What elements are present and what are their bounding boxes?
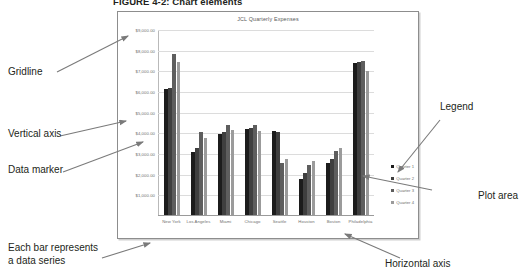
- data-marker-bar[interactable]: [299, 179, 303, 215]
- legend-swatch-icon: [391, 177, 394, 180]
- x-axis-tick-label: New York: [162, 219, 181, 224]
- data-marker-bar[interactable]: [361, 61, 365, 215]
- data-marker-bar[interactable]: [357, 62, 361, 215]
- bar-group[interactable]: [299, 29, 315, 215]
- figure-container: FIGURE 4-2: Chart elements JCL Quarterly…: [0, 0, 527, 276]
- y-axis-tick-label: $3,000.00: [135, 152, 155, 157]
- legend-item-label: Quarter 3: [396, 188, 414, 193]
- data-marker-bar[interactable]: [172, 54, 176, 215]
- data-marker-bar[interactable]: [204, 138, 208, 216]
- bar-group[interactable]: [164, 29, 180, 215]
- legend-item[interactable]: Quarter 2: [391, 176, 414, 181]
- legend-item[interactable]: Quarter 4: [391, 200, 414, 205]
- bar-group[interactable]: [218, 29, 234, 215]
- data-marker-bar[interactable]: [231, 130, 235, 215]
- annotation-gridline: Gridline: [8, 66, 42, 79]
- figure-caption-text: Chart elements: [172, 0, 242, 7]
- x-axis-tick-label: Los Angeles: [187, 219, 211, 224]
- legend-swatch-icon: [391, 165, 394, 168]
- legend-item-label: Quarter 2: [396, 176, 414, 181]
- horizontal-axis: [158, 215, 374, 216]
- chart-frame[interactable]: JCL Quarterly Expenses $9,000.00$8,000.0…: [117, 11, 419, 239]
- annotation-data-series: Each bar represents a data series: [8, 242, 98, 267]
- data-marker-bar[interactable]: [177, 62, 181, 215]
- y-axis-tick-label: $9,000.00: [135, 28, 155, 33]
- data-marker-bar[interactable]: [312, 161, 316, 215]
- plot-area[interactable]: $9,000.00$8,000.00$7,000.00$6,000.00$5,0…: [158, 30, 374, 216]
- legend-item[interactable]: Quarter 3: [391, 188, 414, 193]
- x-axis-tick-label: Miami: [220, 219, 232, 224]
- bar-group[interactable]: [245, 29, 261, 215]
- data-marker-bar[interactable]: [326, 163, 330, 215]
- legend-item-label: Quarter 4: [396, 200, 414, 205]
- bar-group[interactable]: [326, 29, 342, 215]
- data-marker-bar[interactable]: [366, 71, 370, 215]
- legend[interactable]: Quarter 1Quarter 2Quarter 3Quarter 4: [391, 164, 414, 205]
- bar-group[interactable]: [272, 29, 288, 215]
- data-marker-bar[interactable]: [285, 159, 289, 215]
- legend-swatch-icon: [391, 201, 394, 204]
- x-axis-tick-label: Philadelphia: [348, 219, 372, 224]
- annotation-data-series-line1: Each bar represents: [8, 242, 98, 255]
- data-marker-bar[interactable]: [258, 131, 262, 215]
- y-axis-tick-label: $1,000.00: [135, 193, 155, 198]
- data-marker-bar[interactable]: [168, 88, 172, 215]
- annotation-vertical-axis: Vertical axis: [8, 128, 61, 141]
- annotation-legend: Legend: [440, 101, 473, 114]
- bar-group[interactable]: [353, 29, 369, 215]
- bar-group[interactable]: [191, 29, 207, 215]
- data-marker-bar[interactable]: [249, 128, 253, 215]
- data-marker-bar[interactable]: [199, 132, 203, 215]
- x-axis-tick-label: Boston: [327, 219, 341, 224]
- data-marker-bar[interactable]: [330, 159, 334, 215]
- y-axis-tick-label: $5,000.00: [135, 110, 155, 115]
- legend-item[interactable]: Quarter 1: [391, 164, 414, 169]
- data-marker-bar[interactable]: [226, 125, 230, 215]
- data-marker-bar[interactable]: [253, 125, 257, 215]
- y-axis-tick-label: $6,000.00: [135, 90, 155, 95]
- annotation-plot-area: Plot area: [478, 190, 518, 203]
- data-marker-bar[interactable]: [280, 163, 284, 215]
- data-marker-bar[interactable]: [353, 63, 357, 215]
- vertical-axis: [158, 30, 159, 216]
- figure-caption: FIGURE 4-2: Chart elements: [113, 0, 242, 7]
- data-marker-bar[interactable]: [334, 151, 338, 215]
- y-axis-tick-label: $7,000.00: [135, 69, 155, 74]
- x-axis-tick-label: Houston: [298, 219, 314, 224]
- data-marker-bar[interactable]: [272, 131, 276, 215]
- y-axis-tick-label: $8,000.00: [135, 48, 155, 53]
- data-marker-bar[interactable]: [339, 148, 343, 215]
- data-marker-bar[interactable]: [245, 129, 249, 215]
- y-axis-tick-label: $4,000.00: [135, 131, 155, 136]
- data-marker-bar[interactable]: [307, 165, 311, 215]
- chart-title: JCL Quarterly Expenses: [118, 16, 418, 22]
- data-marker-bar[interactable]: [195, 148, 199, 215]
- y-axis-tick-label: $2,000.00: [135, 172, 155, 177]
- x-axis-tick-label: Chicago: [244, 219, 260, 224]
- data-marker-bar[interactable]: [222, 132, 226, 215]
- x-axis-tick-label: Seattle: [273, 219, 287, 224]
- annotation-data-series-line2: a data series: [8, 255, 98, 268]
- data-marker-bar[interactable]: [164, 89, 168, 215]
- figure-number: FIGURE 4-2:: [113, 0, 170, 7]
- legend-item-label: Quarter 1: [396, 164, 414, 169]
- legend-swatch-icon: [391, 189, 394, 192]
- data-marker-bar[interactable]: [191, 152, 195, 215]
- data-marker-bar[interactable]: [276, 132, 280, 215]
- data-marker-bar[interactable]: [303, 173, 307, 215]
- annotation-data-marker: Data marker: [8, 164, 63, 177]
- data-marker-bar[interactable]: [218, 134, 222, 215]
- annotation-horizontal-axis: Horizontal axis: [385, 258, 451, 271]
